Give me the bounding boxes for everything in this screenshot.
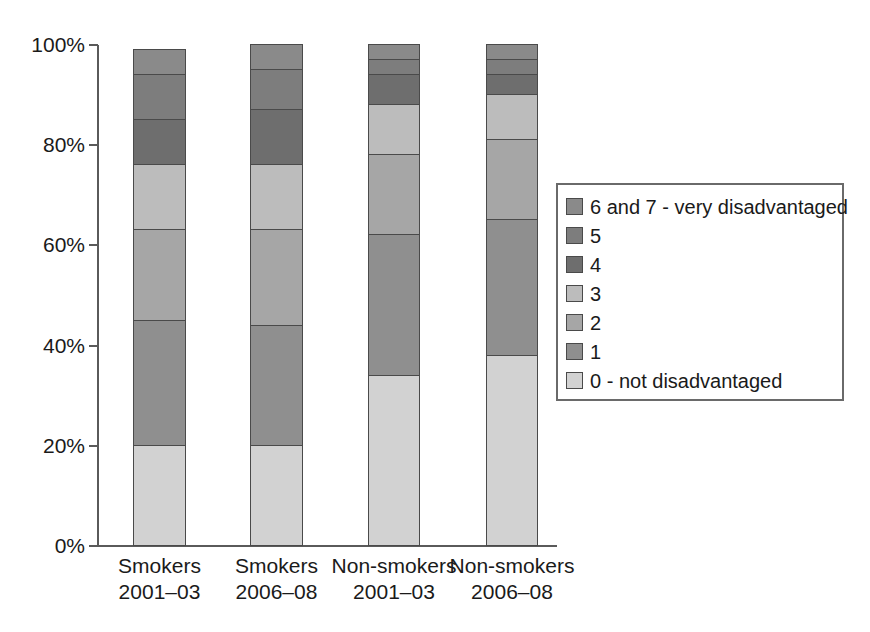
legend-item-label: 4 [590, 255, 601, 275]
bar-segment [133, 164, 186, 230]
bar-segment [486, 94, 538, 140]
legend-swatch-icon [566, 372, 583, 389]
legend-item: 1 [566, 337, 836, 366]
legend-item-label: 5 [590, 226, 601, 246]
legend-item-label: 6 and 7 - very disadvantaged [590, 197, 848, 217]
bar-segment [133, 445, 186, 546]
bar-segment [250, 69, 303, 110]
y-axis-tick-label: 40% [3, 335, 85, 356]
bar-segment [133, 229, 186, 320]
legend-item: 4 [566, 250, 836, 279]
y-axis-tick [89, 445, 98, 447]
legend-swatch-icon [566, 227, 583, 244]
legend-item: 3 [566, 279, 836, 308]
bar-segment [486, 139, 538, 220]
x-axis-label-4: Non-smokers2006–08 [422, 553, 602, 605]
bar-1 [133, 45, 186, 546]
legend-items: 6 and 7 - very disadvantaged543210 - not… [566, 192, 836, 395]
plot-area [99, 45, 557, 546]
bar-4 [486, 45, 538, 546]
legend-item: 5 [566, 221, 836, 250]
y-axis-tick-label: 80% [3, 134, 85, 155]
legend-swatch-icon [566, 256, 583, 273]
legend: 6 and 7 - very disadvantaged543210 - not… [556, 183, 844, 401]
bar-segment [133, 119, 186, 165]
bar-segment [250, 109, 303, 165]
y-axis-tick [89, 144, 98, 146]
bar-segment [486, 44, 538, 60]
bar-segment [368, 375, 420, 546]
bar-segment [250, 325, 303, 446]
legend-item: 0 - not disadvantaged [566, 366, 836, 395]
bar-segment [368, 74, 420, 105]
bar-segment [486, 59, 538, 75]
legend-item: 2 [566, 308, 836, 337]
bar-segment [250, 164, 303, 230]
y-axis-tick [89, 44, 98, 46]
y-axis-tick [89, 545, 98, 547]
bar-segment [368, 59, 420, 75]
bar-segment [250, 445, 303, 546]
y-axis-tick-label: 60% [3, 234, 85, 255]
legend-item: 6 and 7 - very disadvantaged [566, 192, 836, 221]
legend-swatch-icon [566, 285, 583, 302]
legend-item-label: 0 - not disadvantaged [590, 371, 782, 391]
bar-segment [486, 355, 538, 546]
bar-segment [133, 320, 186, 446]
legend-item-label: 3 [590, 284, 601, 304]
bar-3 [368, 45, 420, 546]
y-axis-tick [89, 244, 98, 246]
legend-swatch-icon [566, 314, 583, 331]
bar-segment [486, 74, 538, 95]
y-axis-tick [89, 345, 98, 347]
bar-segment [486, 219, 538, 355]
x-axis-label-line1: Non-smokers [450, 554, 575, 577]
bar-segment [368, 44, 420, 60]
legend-item-label: 2 [590, 313, 601, 333]
y-axis-tick-label: 20% [3, 435, 85, 456]
x-axis-label-line2: 2006–08 [422, 579, 602, 605]
y-axis-tick-label: 100% [3, 34, 85, 55]
bar-segment [368, 234, 420, 375]
bar-segment [250, 44, 303, 70]
bar-segment [250, 229, 303, 325]
bar-segment [133, 49, 186, 75]
stacked-bar-chart: 0%20%40%60%80%100% Smokers2001–03Smokers… [0, 0, 870, 632]
bar-2 [250, 45, 303, 546]
bar-segment [368, 104, 420, 155]
legend-swatch-icon [566, 198, 583, 215]
legend-swatch-icon [566, 343, 583, 360]
bar-segment [133, 74, 186, 120]
legend-item-label: 1 [590, 342, 601, 362]
bar-segment [368, 154, 420, 235]
